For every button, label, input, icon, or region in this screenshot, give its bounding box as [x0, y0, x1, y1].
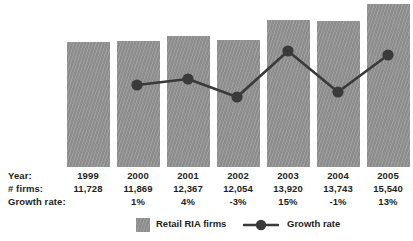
bar-2000 [117, 41, 160, 167]
legend-label-growth-rate: Growth rate [287, 218, 340, 229]
cell-firms-2005: 15,540 [373, 183, 403, 194]
cell-firms-2003: 13,920 [273, 183, 303, 194]
cell-growth-2004: -1% [329, 196, 346, 207]
legend-label-retail-ria-firms: Retail RIA firms [156, 218, 226, 229]
cell-growth-2001: 4% [181, 196, 195, 207]
legend-swatch-retail-ria-firms [136, 218, 150, 232]
cell-year-2005: 2005 [377, 170, 399, 181]
cell-firms-2002: 12,054 [223, 183, 253, 194]
row-label-firms: # firms: [8, 183, 43, 194]
legend-line-marker-icon [243, 216, 279, 234]
cell-year-2004: 2004 [327, 170, 349, 181]
bar-1999 [67, 42, 110, 167]
cell-year-1999: 1999 [77, 170, 99, 181]
plot-area [0, 0, 413, 170]
bar-2003 [267, 20, 310, 167]
bar-2002 [217, 40, 260, 167]
cell-year-2000: 2000 [127, 170, 149, 181]
cell-firms-1999: 11,728 [73, 183, 102, 194]
row-label-year: Year: [8, 170, 32, 181]
bar-2004 [317, 21, 360, 167]
bar-2005 [367, 4, 410, 167]
legend: Retail RIA firms Growth rate [0, 214, 413, 241]
cell-year-2001: 2001 [177, 170, 199, 181]
cell-growth-2002: -3% [229, 196, 246, 207]
cell-year-2003: 2003 [277, 170, 299, 181]
cell-year-2002: 2002 [227, 170, 249, 181]
chart-figure: Year: # firms: Growth rate: 199920002001… [0, 0, 413, 241]
data-table: Year: # firms: Growth rate: 199920002001… [0, 168, 413, 212]
cell-growth-2000: 1% [131, 196, 145, 207]
bar-2001 [167, 36, 210, 167]
cell-firms-2001: 12,367 [173, 183, 203, 194]
cell-firms-2000: 11,869 [123, 183, 152, 194]
row-label-growth: Growth rate: [8, 196, 66, 207]
cell-growth-2005: 13% [378, 196, 397, 207]
cell-firms-2004: 13,743 [323, 183, 353, 194]
cell-growth-2003: 15% [278, 196, 297, 207]
